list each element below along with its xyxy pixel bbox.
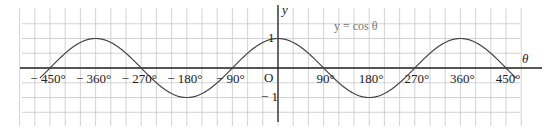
x-axis-label: θ (522, 51, 529, 66)
grid-lines (20, 8, 522, 126)
x-tick-label: 180° (359, 71, 384, 86)
x-tick-label: − 450° (30, 71, 65, 86)
x-tick-labels: − 450°− 360°− 270°− 180°− 90°90°180°270°… (30, 71, 520, 86)
y-axis-label: y (280, 2, 288, 17)
x-tick-label: − 270° (122, 71, 157, 86)
x-tick-label: − 90° (216, 71, 245, 86)
curve-label: y = cos θ (334, 19, 378, 33)
x-tick-label: 90° (316, 71, 334, 86)
x-tick-label: − 180° (167, 71, 202, 86)
cosine-graph: − 450°− 360°− 270°− 180°− 90°90°180°270°… (0, 0, 549, 132)
y-tick-minus-1: − 1 (261, 89, 278, 104)
origin-label: O (264, 70, 273, 85)
x-tick-label: 270° (404, 71, 429, 86)
y-tick-1: 1 (268, 30, 275, 45)
x-tick-label: 360° (450, 71, 475, 86)
x-tick-label: 450° (496, 71, 521, 86)
x-tick-label: − 360° (76, 71, 111, 86)
